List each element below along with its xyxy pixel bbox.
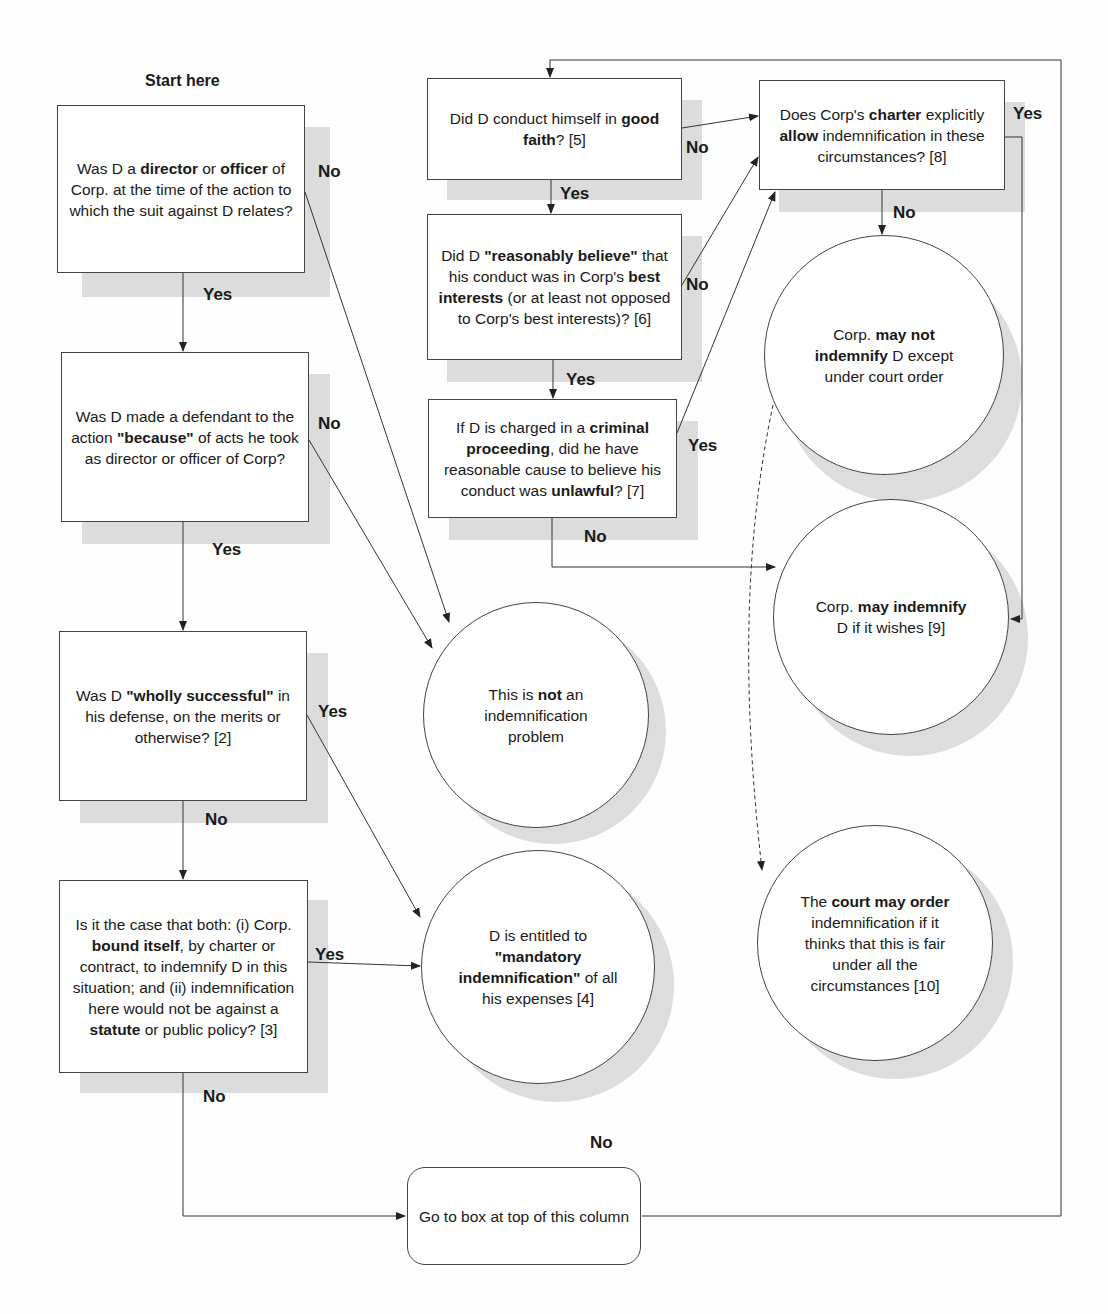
- question-because[interactable]: Was D made a defendant to the action "be…: [61, 352, 309, 522]
- question-director-officer[interactable]: Was D a director or officer of Corp. at …: [57, 105, 305, 273]
- box5-yes-label: Yes: [560, 184, 589, 204]
- box4-no-label: No: [203, 1087, 226, 1107]
- question-bound-itself[interactable]: Is it the case that both: (i) Corp. boun…: [59, 880, 308, 1073]
- box6-no-label: No: [686, 275, 709, 295]
- box3-no-label: No: [205, 810, 228, 830]
- start-here-label: Start here: [145, 72, 220, 90]
- outcome-may-indemnify[interactable]: Corp. may indemnify D if it wishes [9]: [773, 499, 1009, 735]
- box7-yes-label: Yes: [688, 436, 717, 456]
- box3-yes-label: Yes: [318, 702, 347, 722]
- question-criminal-proceeding[interactable]: If D is charged in a criminal proceeding…: [428, 399, 677, 518]
- box8-no-label: No: [893, 203, 916, 223]
- outcome-court-may-order[interactable]: The court may order indemnification if i…: [757, 825, 993, 1061]
- question-charter-allow[interactable]: Does Corp's charter explicitly allow ind…: [759, 80, 1005, 190]
- question-good-faith[interactable]: Did D conduct himself in good faith? [5]: [427, 78, 682, 180]
- box6-yes-label: Yes: [566, 370, 595, 390]
- outcome-may-not-indemnify[interactable]: Corp. may not indemnify D except under c…: [764, 235, 1004, 475]
- box1-yes-label: Yes: [203, 285, 232, 305]
- outcome-mandatory-indemnification[interactable]: D is entitled to "mandatory indemnificat…: [421, 850, 655, 1084]
- question-wholly-successful[interactable]: Was D "wholly successful" in his defense…: [59, 631, 307, 801]
- box4-yes-label: Yes: [315, 945, 344, 965]
- box2-no-label: No: [318, 414, 341, 434]
- question-reasonably-believe[interactable]: Did D "reasonably believe" that his cond…: [427, 214, 682, 360]
- box8-yes-label: Yes: [1013, 104, 1042, 124]
- box7-no-label: No: [584, 527, 607, 547]
- indemnification-flowchart: Start here Was D a director or officer o…: [0, 0, 1108, 1314]
- box1-no-label: No: [318, 162, 341, 182]
- goto-top-of-column-box[interactable]: Go to box at top of this column: [407, 1167, 641, 1265]
- box5-no-label: No: [686, 138, 709, 158]
- box2-yes-label: Yes: [212, 540, 241, 560]
- outcome-not-indemnification-problem[interactable]: This is not an indemnification problem: [423, 602, 649, 828]
- circle-no-label: No: [590, 1133, 613, 1153]
